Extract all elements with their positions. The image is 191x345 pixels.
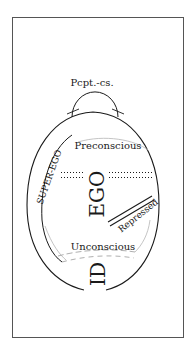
unconscious-dashes-2	[62, 256, 134, 262]
diagram-canvas: Pcpt.-cs. Preconscious SUPER-EGO EGO Rep…	[0, 0, 191, 345]
label-repressed: Repressed	[116, 197, 160, 234]
label-superego: SUPER-EGO	[35, 148, 64, 205]
label-unconscious: Unconscious	[71, 241, 135, 252]
perception-cap	[72, 92, 118, 117]
label-perception: Pcpt.-cs.	[70, 77, 113, 88]
faint-trace-right	[135, 220, 150, 252]
label-id: ID	[86, 262, 110, 286]
label-preconscious: Preconscious	[74, 140, 141, 151]
psyche-diagram: Pcpt.-cs. Preconscious SUPER-EGO EGO Rep…	[0, 0, 191, 345]
label-ego: EGO	[85, 171, 109, 218]
